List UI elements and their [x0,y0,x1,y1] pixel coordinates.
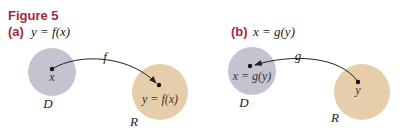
domain-set-label: D [42,96,53,111]
figure-title: Figure 5 [8,8,59,23]
range-point-dot [157,83,161,87]
panel-a-equation: y = f(x) [29,24,70,39]
arrow-label-g: g [295,48,302,63]
range-point-label: y [354,83,361,97]
panel-b-label: (b) [231,24,248,39]
range-point-label: y = f(x) [141,92,178,106]
panel-a-label: (a) [8,24,24,39]
arrow-label-f: f [103,49,109,64]
domain-set-label: D [238,95,249,110]
figure-5-diagram: Figure 5 (a) y = f(x) f x y = f(x) D R (… [0,0,414,136]
panel-b: (b) x = g(y) g x = g(y) y D R [228,24,390,125]
panel-b-equation: x = g(y) [252,24,295,39]
range-set-label: R [129,114,138,129]
domain-point-dot [248,64,252,68]
domain-point-label: x [48,70,55,84]
range-set-label: R [330,110,339,125]
domain-point-label: x = g(y) [232,69,272,83]
panel-a: (a) y = f(x) f x y = f(x) D R [8,24,188,129]
range-set-circle [334,64,390,120]
